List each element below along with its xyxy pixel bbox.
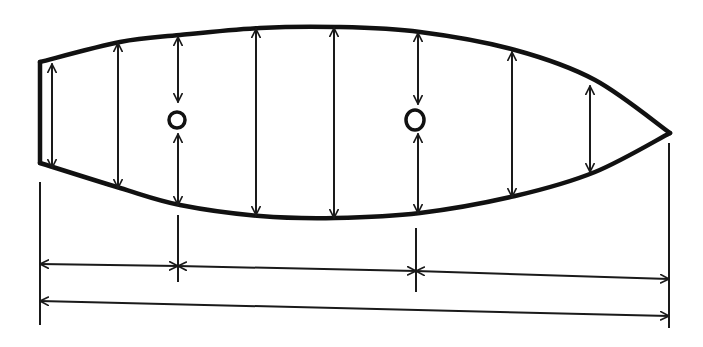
extension-lines <box>40 143 669 328</box>
hole-circle <box>169 112 185 128</box>
vertical-dimensions <box>52 28 590 218</box>
horizontal-dimension-arrow <box>178 266 416 271</box>
horizontal-dimension-arrow <box>40 301 669 316</box>
horizontal-dimension-arrow <box>40 264 178 266</box>
drawing-canvas <box>0 0 703 347</box>
top-edge <box>40 27 670 133</box>
horizontal-dimension-arrow <box>416 271 669 279</box>
hole-circle <box>406 110 424 130</box>
profile-outline <box>40 27 670 219</box>
technical-sketch <box>0 0 703 347</box>
holes <box>169 110 424 130</box>
bottom-edge <box>40 133 670 218</box>
horizontal-dimensions <box>40 264 669 316</box>
